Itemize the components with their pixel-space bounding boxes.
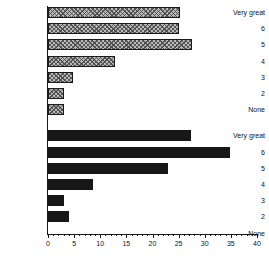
x-tick-minor (168, 234, 169, 236)
x-tick-major (257, 234, 258, 238)
bar (48, 7, 180, 18)
x-tick-minor (79, 234, 80, 236)
x-tick-minor (95, 234, 96, 236)
bar (48, 23, 179, 34)
bar-row (48, 104, 257, 115)
x-tick-minor (220, 234, 221, 236)
x-tick-minor (163, 234, 164, 236)
x-axis-tick-label: 15 (122, 240, 130, 247)
x-tick-minor (252, 234, 253, 236)
bar-row (48, 39, 257, 50)
x-tick-major (179, 234, 180, 238)
y-axis-tick-label: Very great (233, 7, 265, 18)
bar (48, 211, 69, 222)
x-tick-minor (69, 234, 70, 236)
bar-row (48, 211, 257, 222)
x-tick-minor (247, 234, 248, 236)
bar-row (48, 179, 257, 190)
bar-row (48, 72, 257, 83)
x-tick-major (205, 234, 206, 238)
bar (48, 88, 64, 99)
x-tick-minor (194, 234, 195, 236)
y-axis-tick-label: 2 (261, 88, 265, 99)
x-tick-minor (226, 234, 227, 236)
x-axis-tick-label: 5 (72, 240, 76, 247)
x-tick-minor (121, 234, 122, 236)
y-axis-tick-label: 5 (261, 39, 265, 50)
x-tick-major (100, 234, 101, 238)
x-tick-minor (142, 234, 143, 236)
bar (48, 72, 73, 83)
x-tick-minor (116, 234, 117, 236)
bar (48, 56, 115, 67)
bar (48, 130, 191, 141)
x-tick-minor (132, 234, 133, 236)
y-axis-tick-label: 6 (261, 23, 265, 34)
y-axis-tick-label: None (248, 104, 265, 115)
bar (48, 163, 168, 174)
x-tick-minor (85, 234, 86, 236)
x-tick-minor (158, 234, 159, 236)
x-axis-tick-label: 0 (46, 240, 50, 247)
y-axis-tick-label: 3 (261, 72, 265, 83)
bar-row (48, 147, 257, 158)
x-tick-minor (210, 234, 211, 236)
x-tick-minor (90, 234, 91, 236)
x-tick-minor (189, 234, 190, 236)
bar-row (48, 195, 257, 206)
bar (48, 179, 93, 190)
x-tick-minor (147, 234, 148, 236)
x-tick-minor (215, 234, 216, 236)
x-tick-minor (105, 234, 106, 236)
x-tick-minor (58, 234, 59, 236)
x-tick-major (231, 234, 232, 238)
bar (48, 39, 192, 50)
x-tick-minor (137, 234, 138, 236)
bar-row (48, 88, 257, 99)
bar (48, 195, 64, 206)
y-axis-tick-label: 5 (261, 163, 265, 174)
y-axis-tick-label: 3 (261, 195, 265, 206)
x-tick-minor (173, 234, 174, 236)
y-axis-tick-label: 4 (261, 56, 265, 67)
y-axis-tick-label: 6 (261, 147, 265, 158)
y-axis-tick-label: 4 (261, 179, 265, 190)
x-tick-minor (236, 234, 237, 236)
y-axis-tick-label: 2 (261, 211, 265, 222)
x-axis-tick-label: 35 (227, 240, 235, 247)
bar (48, 147, 230, 158)
x-tick-minor (184, 234, 185, 236)
y-axis-tick-label: Very great (233, 130, 265, 141)
bar-row (48, 163, 257, 174)
bar-row (48, 23, 257, 34)
bar (48, 104, 64, 115)
x-axis-tick-label: 25 (175, 240, 183, 247)
x-tick-minor (241, 234, 242, 236)
x-tick-minor (200, 234, 201, 236)
x-tick-minor (64, 234, 65, 236)
x-axis-tick-label: 20 (149, 240, 157, 247)
x-axis-tick-label: 40 (253, 240, 261, 247)
x-tick-minor (111, 234, 112, 236)
bar-chart: Very great65432NoneVery great65432None 0… (0, 0, 269, 256)
x-tick-major (74, 234, 75, 238)
bar-row (48, 130, 257, 141)
bar-row (48, 7, 257, 18)
x-axis-tick-label: 30 (201, 240, 209, 247)
bar-row (48, 56, 257, 67)
x-tick-major (126, 234, 127, 238)
x-tick-major (153, 234, 154, 238)
x-axis-tick-label: 10 (96, 240, 104, 247)
x-tick-minor (53, 234, 54, 236)
x-tick-major (48, 234, 49, 238)
